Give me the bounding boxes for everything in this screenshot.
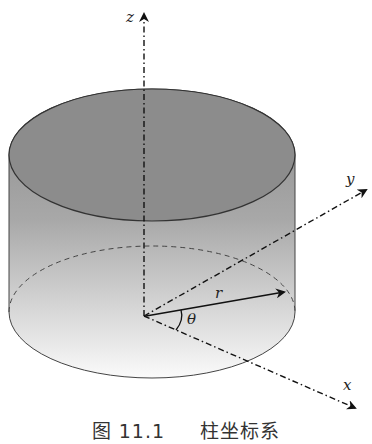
figure-caption: 图 11.1 柱坐标系 [0, 416, 372, 443]
cylinder-diagram [0, 0, 372, 444]
caption-text: 柱坐标系 [200, 420, 280, 442]
cylinder-top [9, 89, 295, 221]
theta-label: θ [187, 310, 196, 328]
z-axis-label: z [126, 8, 134, 26]
radius-label: r [215, 284, 222, 302]
caption-number: 图 11.1 [92, 420, 165, 442]
x-axis-label: x [343, 376, 351, 394]
y-axis-label: y [346, 170, 354, 188]
